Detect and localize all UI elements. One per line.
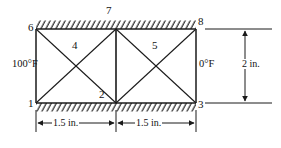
dimension-label-right-width: 1.5 in.	[135, 118, 162, 128]
top-fixed-boundary-hatching	[36, 21, 196, 30]
dimension-label-height: 2 in.	[241, 59, 261, 69]
node-label-2: 2	[99, 89, 105, 100]
element-label-5: 5	[152, 40, 158, 51]
right-temperature-label: 0°F	[199, 59, 214, 70]
node-label-3: 3	[198, 99, 204, 110]
element-label-4: 4	[72, 40, 78, 51]
dimension-label-left-width: 1.5 in.	[52, 118, 79, 128]
node-label-1: 1	[28, 98, 34, 109]
node-label-7: 7	[106, 5, 112, 16]
node-label-8: 8	[198, 16, 204, 27]
node-label-6: 6	[28, 22, 34, 33]
vertical-dimension-group	[205, 29, 272, 103]
left-temperature-label: 100°F	[12, 59, 38, 70]
